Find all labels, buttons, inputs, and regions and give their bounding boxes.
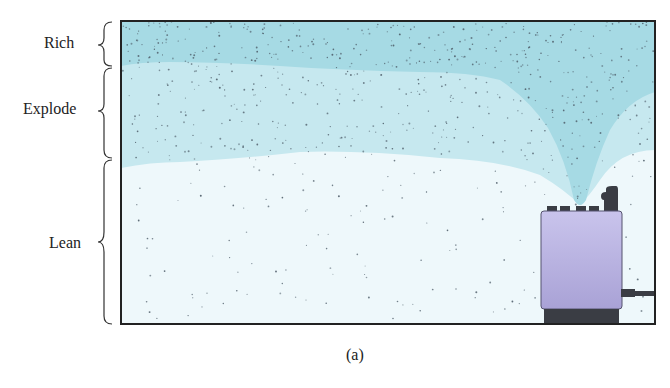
brace-lean (98, 160, 112, 324)
brace-explode (98, 68, 112, 158)
flammability-diagram (0, 0, 670, 388)
figure-caption: (a) (346, 346, 364, 364)
brace-rich (98, 22, 112, 66)
